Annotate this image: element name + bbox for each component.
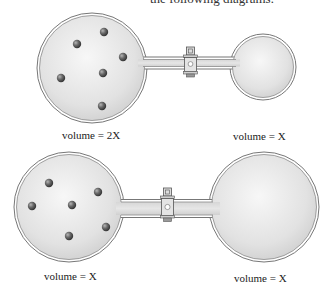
- gas-particle: [119, 53, 127, 61]
- gas-particle: [94, 188, 102, 196]
- top-apparatus: [37, 13, 296, 123]
- bottom-left-volume-label: volume = X: [44, 270, 97, 282]
- gas-particle: [100, 28, 108, 36]
- top-right-flask: [233, 37, 294, 98]
- diagram-canvas: [0, 0, 326, 293]
- bottom-valve-icon[interactable]: [161, 188, 175, 222]
- top-left-flask: [40, 16, 145, 121]
- top-left-volume-label: volume = 2X: [62, 129, 120, 141]
- gas-particle: [57, 74, 65, 82]
- gas-particle: [99, 69, 107, 77]
- bottom-right-flask: [212, 155, 317, 260]
- bottom-apparatus: [14, 152, 319, 262]
- gas-particle: [73, 40, 81, 48]
- top-right-volume-label: volume = X: [233, 130, 286, 142]
- gas-particle: [45, 179, 53, 187]
- gas-particle: [98, 102, 106, 110]
- gas-particle: [28, 202, 36, 210]
- top-valve-icon[interactable]: [184, 47, 198, 77]
- gas-particle: [102, 223, 110, 231]
- gas-particle: [65, 232, 73, 240]
- bottom-right-volume-label: volume = X: [234, 272, 287, 284]
- gas-particle: [68, 201, 76, 209]
